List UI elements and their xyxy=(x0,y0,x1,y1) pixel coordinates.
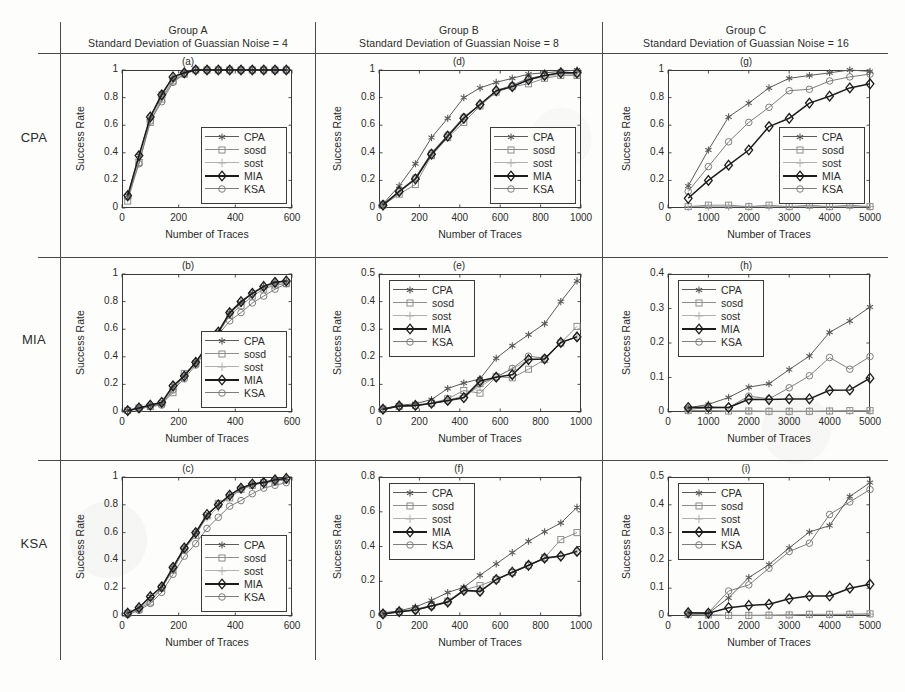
legend-item-sost[interactable]: sost xyxy=(682,512,760,525)
x-tick-label: 0 xyxy=(100,620,144,631)
legend-item-cpa[interactable]: CPA xyxy=(494,130,572,143)
legend-item-ksa[interactable]: KSA xyxy=(682,335,760,348)
y-tick-label: 0.1 xyxy=(632,371,664,382)
legend-item-ksa[interactable]: KSA xyxy=(393,335,471,348)
chart-legend[interactable]: CPA sosd sost MIA KSA xyxy=(678,280,764,357)
y-tick-label: 1 xyxy=(343,63,375,74)
legend-item-sost[interactable]: sost xyxy=(393,512,471,525)
legend-item-sost[interactable]: sost xyxy=(494,156,572,169)
legend-label: MIA xyxy=(716,323,740,335)
chart-legend[interactable]: CPA sosd sost MIA KSA xyxy=(678,483,764,560)
legend-item-mia[interactable]: MIA xyxy=(393,322,471,335)
chart-legend[interactable]: CPA sosd sost MIA KSA xyxy=(201,127,287,204)
legend-item-mia[interactable]: MIA xyxy=(783,169,861,182)
legend-item-cpa[interactable]: CPA xyxy=(205,538,283,551)
legend-item-sosd[interactable]: sosd xyxy=(783,143,861,156)
legend-item-sosd[interactable]: sosd xyxy=(205,551,283,564)
legend-item-sost[interactable]: sost xyxy=(783,156,861,169)
legend-item-sosd[interactable]: sosd xyxy=(205,143,283,156)
x-tick-label: 600 xyxy=(478,416,522,427)
x-tick-label: 600 xyxy=(478,212,522,223)
legend-item-sosd[interactable]: sosd xyxy=(494,143,572,156)
y-axis-label: Success Rate xyxy=(74,106,86,171)
legend-item-mia[interactable]: MIA xyxy=(393,525,471,538)
legend-item-ksa[interactable]: KSA xyxy=(205,590,283,603)
legend-item-sosd[interactable]: sosd xyxy=(205,347,283,360)
chart-legend[interactable]: CPA sosd sost MIA KSA xyxy=(779,127,865,204)
y-tick-label: 0 xyxy=(86,201,118,212)
legend-item-sost[interactable]: sost xyxy=(205,360,283,373)
chart-panel-d: (d)00.20.40.60.8102004006008001000Number… xyxy=(317,56,601,256)
legend-label: KSA xyxy=(817,183,843,195)
y-tick-label: 0.4 xyxy=(86,146,118,157)
legend-item-sosd[interactable]: sosd xyxy=(682,296,760,309)
legend-item-sosd[interactable]: sosd xyxy=(393,296,471,309)
x-tick-label: 0 xyxy=(646,212,690,223)
legend-label: sost xyxy=(716,513,740,525)
column-header-group-a: Group A Standard Deviation of Guassian N… xyxy=(62,24,314,49)
legend-item-mia[interactable]: MIA xyxy=(682,322,760,335)
chart-legend[interactable]: CPA sosd sost MIA KSA xyxy=(389,483,475,560)
legend-item-mia[interactable]: MIA xyxy=(205,577,283,590)
x-tick-label: 400 xyxy=(213,416,257,427)
legend-item-cpa[interactable]: CPA xyxy=(682,283,760,296)
legend-item-cpa[interactable]: CPA xyxy=(682,486,760,499)
col-rule-2 xyxy=(602,22,603,660)
legend-item-mia[interactable]: MIA xyxy=(205,373,283,386)
chart-legend[interactable]: CPA sosd sost MIA KSA xyxy=(389,280,475,357)
legend-item-sost[interactable]: sost xyxy=(205,564,283,577)
legend-label: MIA xyxy=(427,323,451,335)
legend-marker-square-icon xyxy=(205,551,239,564)
x-tick-label: 5000 xyxy=(848,212,892,223)
legend-item-ksa[interactable]: KSA xyxy=(682,538,760,551)
legend-item-ksa[interactable]: KSA xyxy=(205,182,283,195)
chart-legend[interactable]: CPA sosd sost MIA KSA xyxy=(490,127,576,204)
x-axis-label: Number of Traces xyxy=(122,228,292,240)
y-tick-label: 0.5 xyxy=(343,267,375,278)
legend-marker-diamond-icon xyxy=(682,322,716,335)
y-tick-label: 0 xyxy=(343,609,375,620)
legend-marker-circle-icon xyxy=(682,335,716,348)
chart-legend[interactable]: CPA sosd sost MIA KSA xyxy=(201,331,287,408)
y-tick-label: 0 xyxy=(632,609,664,620)
legend-label: MIA xyxy=(716,526,740,538)
group-c-subtitle: Standard Deviation of Guassian Noise = 1… xyxy=(604,37,888,50)
y-tick-label: 0.3 xyxy=(632,526,664,537)
x-tick-label: 200 xyxy=(397,212,441,223)
x-tick-label: 1000 xyxy=(559,416,603,427)
legend-item-sost[interactable]: sost xyxy=(205,156,283,169)
legend-item-mia[interactable]: MIA xyxy=(682,525,760,538)
legend-label: MIA xyxy=(817,170,841,182)
x-axis-label: Number of Traces xyxy=(668,636,870,648)
legend-item-cpa[interactable]: CPA xyxy=(205,334,283,347)
x-tick-label: 0 xyxy=(646,416,690,427)
legend-item-cpa[interactable]: CPA xyxy=(783,130,861,143)
legend-marker-circle-icon xyxy=(205,590,239,603)
legend-item-cpa[interactable]: CPA xyxy=(393,486,471,499)
y-tick-label: 0.6 xyxy=(632,118,664,129)
legend-item-sosd[interactable]: sosd xyxy=(393,499,471,512)
legend-label: sosd xyxy=(427,500,454,512)
legend-item-ksa[interactable]: KSA xyxy=(494,182,572,195)
legend-label: sost xyxy=(427,513,451,525)
legend-item-ksa[interactable]: KSA xyxy=(205,386,283,399)
legend-label: KSA xyxy=(239,387,265,399)
legend-item-cpa[interactable]: CPA xyxy=(205,130,283,143)
legend-item-ksa[interactable]: KSA xyxy=(783,182,861,195)
group-a-subtitle: Standard Deviation of Guassian Noise = 4 xyxy=(62,37,314,50)
x-tick-label: 200 xyxy=(397,620,441,631)
y-tick-label: 0.6 xyxy=(86,118,118,129)
legend-item-ksa[interactable]: KSA xyxy=(393,538,471,551)
legend-item-mia[interactable]: MIA xyxy=(205,169,283,182)
legend-item-cpa[interactable]: CPA xyxy=(393,283,471,296)
x-tick-label: 0 xyxy=(100,416,144,427)
legend-item-mia[interactable]: MIA xyxy=(494,169,572,182)
legend-item-sost[interactable]: sost xyxy=(393,309,471,322)
chart-legend[interactable]: CPA sosd sost MIA KSA xyxy=(201,535,287,612)
y-tick-label: 0.6 xyxy=(343,505,375,516)
y-tick-label: 0.8 xyxy=(343,91,375,102)
legend-item-sosd[interactable]: sosd xyxy=(682,499,760,512)
x-tick-label: 800 xyxy=(519,620,563,631)
legend-item-sost[interactable]: sost xyxy=(682,309,760,322)
x-axis-label: Number of Traces xyxy=(379,228,581,240)
